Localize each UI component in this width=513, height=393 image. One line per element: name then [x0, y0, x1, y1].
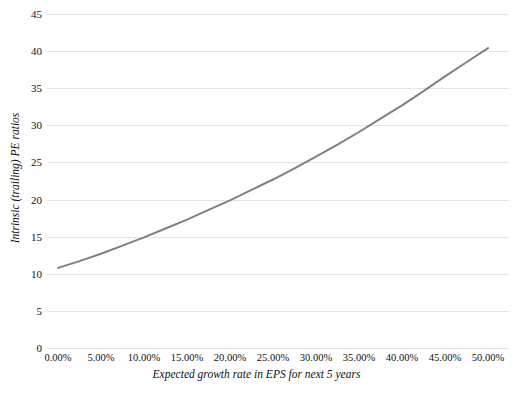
y-axis-title: Intrinsic (trailing) PE ratios — [9, 103, 21, 253]
y-tick-label: 35 — [12, 83, 42, 94]
gridline-35 — [47, 88, 509, 89]
gridline-20 — [47, 200, 509, 201]
x-axis-title: Expected growth rate in EPS for next 5 y… — [0, 368, 513, 380]
gridline-40 — [47, 51, 509, 52]
chart-container: 45 40 35 30 25 20 15 10 5 0 0.00% 5.00% … — [0, 0, 513, 393]
y-axis: 45 40 35 30 25 20 15 10 5 0 — [0, 0, 42, 393]
y-tick-label: 5 — [12, 306, 42, 317]
plot-area — [47, 14, 509, 348]
gridline-10 — [47, 274, 509, 275]
x-tick-label: 50.00% — [458, 352, 513, 364]
gridline-45 — [47, 14, 509, 15]
gridline-0 — [47, 348, 509, 349]
gridline-25 — [47, 162, 509, 163]
gridline-30 — [47, 125, 509, 126]
y-tick-label: 45 — [12, 9, 42, 20]
gridline-15 — [47, 237, 509, 238]
gridline-5 — [47, 311, 509, 312]
y-tick-label: 40 — [12, 46, 42, 57]
y-tick-label: 10 — [12, 269, 42, 280]
